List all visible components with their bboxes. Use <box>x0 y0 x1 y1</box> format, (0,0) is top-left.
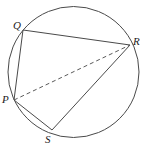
chord-sr <box>52 45 130 130</box>
geometry-figure: Q R P S <box>0 0 146 150</box>
vertex-label-p: P <box>2 94 9 105</box>
chord-qr <box>23 30 130 45</box>
geometry-canvas <box>0 0 146 150</box>
diagonal-pr-dashed <box>14 45 130 100</box>
vertex-label-r: R <box>133 36 140 47</box>
chord-qp <box>14 30 23 100</box>
chord-ps <box>14 100 52 130</box>
vertex-label-q: Q <box>13 20 21 31</box>
vertex-label-s: S <box>45 134 51 145</box>
